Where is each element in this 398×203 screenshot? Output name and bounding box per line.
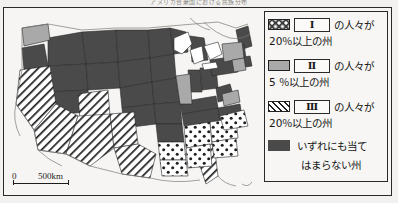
legend-detail-4: はまらない州: [268, 159, 384, 172]
legend-entry-3: Ⅲ の人々が 20％以上の州: [268, 97, 384, 138]
scale-max-label: 500km: [38, 170, 63, 182]
dotted-swatch-icon: [268, 19, 290, 30]
figure-title: アメリカ合衆国における民族分布: [0, 0, 398, 6]
legend-detail-1: 20％以上の州: [268, 35, 384, 48]
legend-tail-2: の人々が: [334, 60, 374, 72]
legend-entry-2: Ⅱ の人々が 5 ％以上の州: [268, 56, 384, 97]
scale-bar: 0 500km: [12, 170, 90, 194]
legend-numeral-1: Ⅰ: [294, 18, 330, 32]
gray-swatch-icon: [268, 60, 290, 71]
legend-detail-3: 20％以上の州: [268, 117, 384, 130]
legend-entry-4: いずれにも当て はまらない州: [268, 138, 384, 181]
dark-swatch-icon: [268, 140, 290, 151]
legend-entry-1: Ⅰ の人々が 20％以上の州: [268, 15, 384, 56]
legend-tail-1: の人々が: [334, 19, 374, 31]
figure-container: アメリカ合衆国における民族分布: [0, 0, 398, 203]
legend-numeral-3: Ⅲ: [294, 100, 330, 114]
hatch-swatch-icon: [268, 101, 290, 112]
scale-rule: [13, 183, 69, 184]
legend-tail-4: いずれにも当て: [297, 140, 367, 153]
united-states-map: [4, 8, 256, 195]
legend-detail-2: 5 ％以上の州: [268, 76, 384, 89]
legend-tail-3: の人々が: [334, 101, 374, 113]
legend-numeral-2: Ⅱ: [294, 59, 330, 73]
legend-box: Ⅰ の人々が 20％以上の州 Ⅱ の人々が 5 ％以上の州 Ⅲ の人々が 20％…: [264, 11, 388, 182]
